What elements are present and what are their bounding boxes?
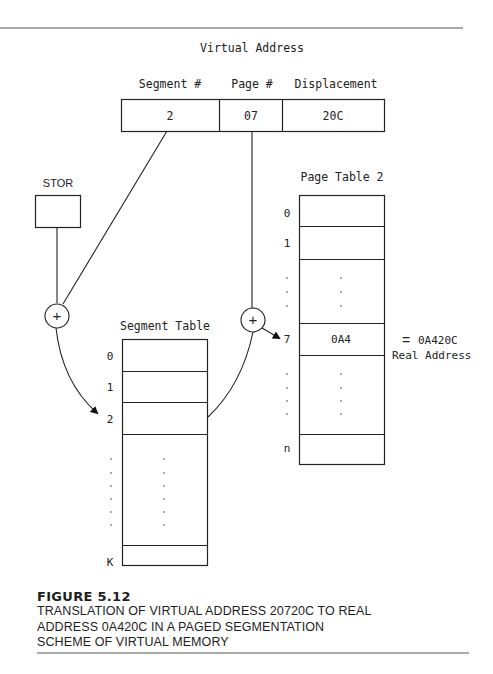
segment-row-label-k: K (107, 556, 114, 569)
virtual-address-title: Virtual Address (200, 41, 304, 55)
segment-table-title: Segment Table (120, 319, 210, 333)
adder-to-page-entry-arrow (262, 328, 279, 338)
stor-register (36, 196, 81, 228)
segment-number-header: Segment # (139, 77, 201, 91)
segment-row-label-1: 1 (107, 381, 114, 394)
page-adder: + (241, 308, 265, 332)
adder-to-segment-entry-arrow (56, 328, 97, 413)
caption-line-1: TRANSLATION OF VIRTUAL ADDRESS 20720C TO… (37, 604, 457, 620)
page-table (300, 196, 385, 465)
figure-caption: FIGURE 5.12 TRANSLATION OF VIRTUAL ADDRE… (37, 589, 457, 651)
page-row-label-0: 0 (284, 207, 291, 220)
page-row-label-1: 1 (284, 237, 291, 250)
segment-number-value: 2 (167, 109, 174, 123)
figure-number: FIGURE 5.12 (37, 589, 457, 604)
caption-line-2: ADDRESS 0A420C IN A PAGED SEGMENTATION (37, 620, 457, 636)
paged-segmentation-diagram: Virtual Address Segment # Page # Displac… (0, 0, 493, 674)
segment-entry-to-adder-curve (208, 332, 253, 417)
real-address-label: Real Address (392, 349, 471, 362)
stor-label: STOR (43, 177, 73, 189)
segment-row-label-0: 0 (107, 350, 114, 363)
segment-table-ellipsis (110, 458, 165, 526)
segment-table (123, 340, 208, 566)
page-row-label-n: n (284, 442, 291, 455)
displacement-header: Displacement (294, 77, 377, 91)
segment-number-to-adder-line (63, 131, 167, 304)
page-table-title: Page Table 2 (300, 170, 383, 184)
segment-row-label-2: 2 (107, 413, 114, 426)
caption-line-3: SCHEME OF VIRTUAL MEMORY (37, 635, 457, 651)
page-row-label-7: 7 (284, 333, 291, 346)
displacement-value: 20C (323, 109, 344, 123)
page-table-ellipsis (286, 277, 342, 415)
virtual-address-box: 2 07 20C (122, 100, 385, 132)
equals-sign: = (402, 332, 410, 348)
segment-adder: + (45, 304, 69, 328)
real-address-value: 0A420C (418, 334, 458, 347)
page-number-header: Page # (231, 77, 273, 91)
adder-plus-icon: + (53, 307, 62, 324)
page-entry-7-value: 0A4 (331, 333, 351, 346)
adder-plus-icon: + (249, 311, 258, 328)
page-number-value: 07 (244, 109, 258, 123)
